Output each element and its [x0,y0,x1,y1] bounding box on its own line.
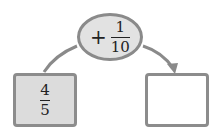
operator-denominator: 10 [111,40,130,55]
input-box: 4 5 [13,73,77,127]
operator-fraction: 1 10 [111,20,130,55]
input-numerator: 4 [40,83,50,98]
input-fraction: 4 5 [40,83,50,118]
input-denominator: 5 [40,103,50,118]
operator-numerator: 1 [116,20,126,35]
output-answer-box[interactable] [145,73,209,127]
plus-sign: + [90,25,107,49]
input-connector [44,46,77,72]
operator-ellipse: + 1 10 [77,13,143,61]
